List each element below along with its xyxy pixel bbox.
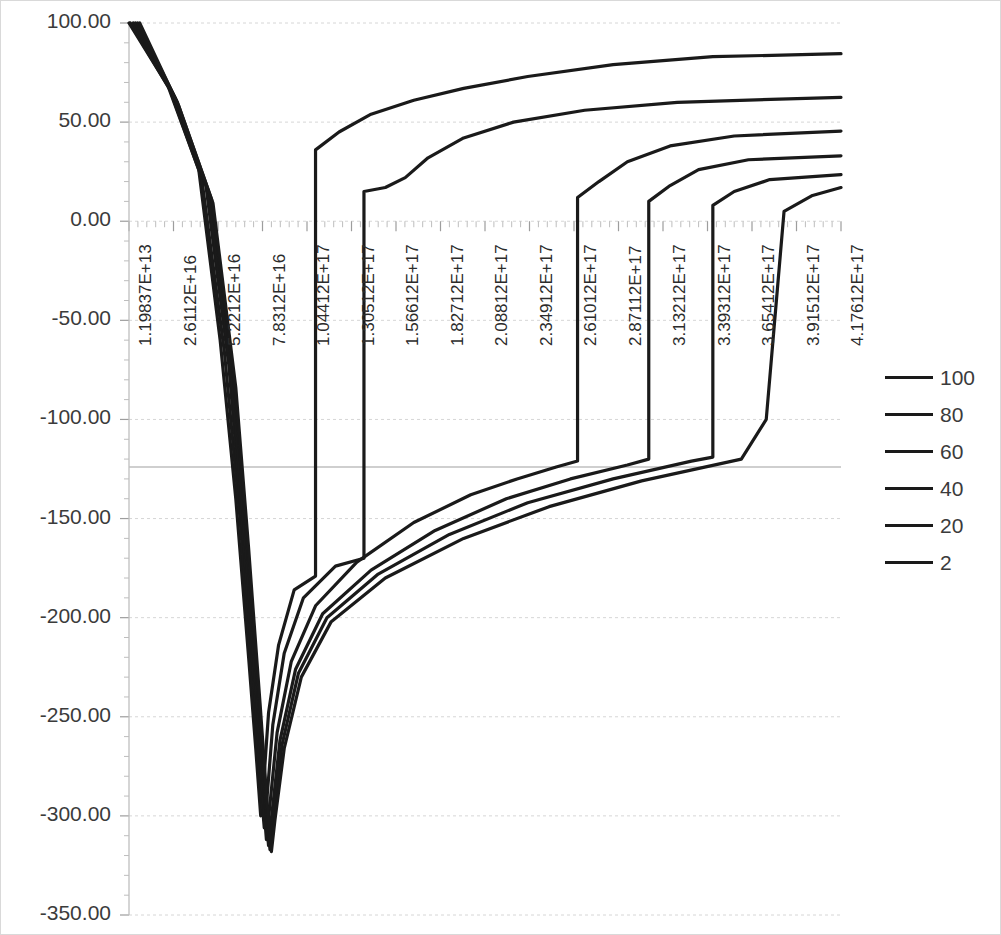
x-axis-tick-label: 2.34912E+17 (537, 245, 557, 347)
legend-item-label: 40 (940, 478, 963, 499)
legend-item[interactable]: 20 (885, 507, 1000, 544)
y-axis-tick-label: 0.00 (70, 207, 111, 231)
y-axis-tick-label: 50.00 (58, 108, 111, 132)
legend-line-swatch-icon (885, 524, 933, 527)
x-axis-tick-label: 2.6112E+16 (181, 255, 201, 346)
x-axis-tick-label: 1.19837E+13 (136, 245, 156, 347)
series-line-40 (135, 23, 841, 846)
x-axis-tick-label: 2.61012E+17 (581, 245, 601, 347)
x-axis-tick-label: 1.82712E+17 (448, 245, 468, 347)
legend-line-swatch-icon (885, 450, 933, 453)
chart-legend: 100806040202 (885, 359, 1000, 581)
y-axis-tick-label: -300.00 (40, 802, 111, 826)
legend-item[interactable]: 100 (885, 359, 1000, 396)
x-axis-tick-label: 3.65412E+17 (759, 245, 779, 347)
legend-line-swatch-icon (885, 561, 933, 564)
y-minor-ticks-group (124, 43, 129, 895)
y-axis-tick-label: -250.00 (40, 703, 111, 727)
x-axis-tick-label: 3.39312E+17 (715, 245, 735, 347)
y-axis-tick-label: -150.00 (40, 505, 111, 529)
legend-item[interactable]: 40 (885, 470, 1000, 507)
x-axis-tick-label: 3.13212E+17 (670, 245, 690, 347)
series-line-2 (140, 23, 841, 852)
legend-line-swatch-icon (885, 376, 933, 379)
x-axis-tick-label: 2.87112E+17 (626, 246, 646, 346)
y-axis-tick-label: -200.00 (40, 604, 111, 628)
x-axis-tick-label: 2.08812E+17 (492, 245, 512, 347)
y-axis-tick-label: -50.00 (51, 306, 111, 330)
legend-item-label: 100 (940, 367, 975, 388)
data-series-group (129, 23, 841, 852)
legend-item[interactable]: 2 (885, 544, 1000, 581)
x-axis-tick-label: 5.2212E+16 (225, 254, 245, 346)
legend-line-swatch-icon (885, 413, 933, 416)
x-minor-ticks-group (129, 221, 841, 231)
legend-line-swatch-icon (885, 487, 933, 490)
legend-item[interactable]: 60 (885, 433, 1000, 470)
legend-item-label: 20 (940, 515, 963, 536)
legend-item-label: 2 (940, 552, 952, 573)
y-axis-tick-label: 100.00 (47, 9, 111, 33)
legend-item-label: 80 (940, 404, 963, 425)
gridlines-group (120, 23, 841, 915)
x-axis-tick-label: 1.30512E+17 (359, 245, 379, 347)
series-line-20 (138, 23, 841, 850)
chart-container: 100.0050.000.00-50.00-100.00-150.00-200.… (0, 0, 1001, 935)
legend-item-label: 60 (940, 441, 963, 462)
y-axis-tick-label: -100.00 (40, 405, 111, 429)
x-axis-tick-label: 1.56612E+17 (403, 245, 423, 347)
x-axis-tick-label: 3.91512E+17 (804, 245, 824, 347)
chart-plot-area (1, 1, 1001, 935)
legend-item[interactable]: 80 (885, 396, 1000, 433)
x-axis-tick-label: 4.17612E+17 (848, 245, 868, 347)
y-axis-tick-label: -350.00 (40, 901, 111, 925)
x-axis-tick-label: 1.04412E+17 (314, 245, 334, 347)
x-axis-tick-label: 7.8312E+16 (270, 254, 290, 346)
